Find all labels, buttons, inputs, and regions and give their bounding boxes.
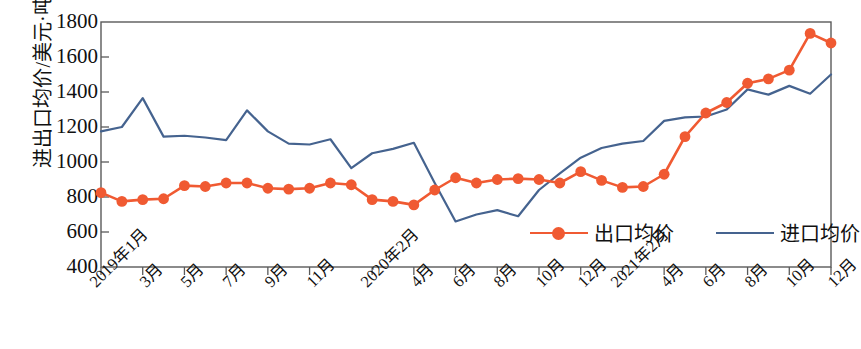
x-tick-label: 11月 bbox=[304, 256, 339, 291]
x-tick-label: 10月 bbox=[533, 255, 568, 290]
x-tick-label: 4月 bbox=[658, 261, 688, 291]
x-tick-label: 12月 bbox=[575, 255, 610, 290]
x-tick-label: 7月 bbox=[220, 261, 250, 291]
legend-item-import[interactable]: 进口均价 bbox=[716, 218, 860, 247]
x-tick-label: 8月 bbox=[742, 261, 772, 291]
x-tick-label: 6月 bbox=[450, 261, 480, 291]
x-tick-label: 3月 bbox=[137, 261, 167, 291]
x-tick-label: 10月 bbox=[783, 255, 818, 290]
legend-swatch-import-icon bbox=[716, 225, 774, 241]
x-tick-label: 9月 bbox=[262, 261, 292, 291]
x-tick-label: 5月 bbox=[178, 261, 208, 291]
legend-label-import: 进口均价 bbox=[780, 218, 860, 247]
x-tick-label: 6月 bbox=[700, 261, 730, 291]
chart-legend: 出口均价 进口均价 bbox=[530, 218, 860, 247]
legend-item-export[interactable]: 出口均价 bbox=[530, 218, 674, 247]
legend-label-export: 出口均价 bbox=[594, 218, 674, 247]
x-tick-label: 8月 bbox=[491, 261, 521, 291]
x-tick-label: 12月 bbox=[825, 255, 860, 290]
x-tick-label: 4月 bbox=[408, 261, 438, 291]
legend-swatch-export-icon bbox=[530, 225, 588, 241]
